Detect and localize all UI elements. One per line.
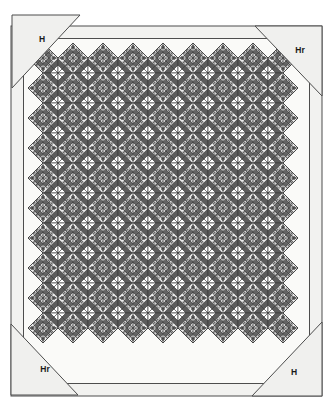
pieced-center-field [20, 35, 310, 373]
block-row [28, 163, 298, 193]
block-row [28, 193, 298, 223]
corner-label-bottom-right: H [291, 367, 297, 377]
corner-label-top-right: Hr [295, 45, 305, 55]
corner-label-bottom-left: Hr [40, 364, 50, 374]
block-row [28, 283, 298, 313]
block-row [28, 133, 298, 163]
block-row [28, 253, 298, 283]
quilt-diagram: H Hr Hr H [0, 0, 333, 414]
block-row [28, 223, 298, 253]
corner-label-top-left: H [39, 34, 45, 44]
block-row [28, 103, 298, 133]
block-row [28, 73, 298, 103]
quilt-diagram-stage: H Hr Hr H [0, 0, 333, 414]
